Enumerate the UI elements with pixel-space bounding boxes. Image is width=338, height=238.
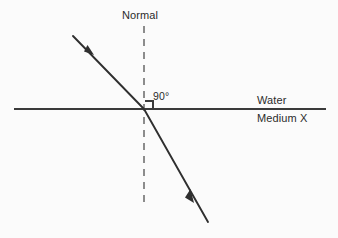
- incident-ray: [73, 36, 144, 109]
- upper-medium-label: Water: [257, 95, 286, 106]
- lower-medium-label: Medium X: [257, 113, 307, 124]
- normal-label: Normal: [122, 10, 158, 21]
- right-angle-label: 90°: [153, 91, 169, 102]
- refracted-ray: [144, 109, 208, 222]
- diagram-canvas: Normal 90° Water Medium X: [0, 0, 338, 238]
- right-angle-marker-icon: [145, 101, 153, 109]
